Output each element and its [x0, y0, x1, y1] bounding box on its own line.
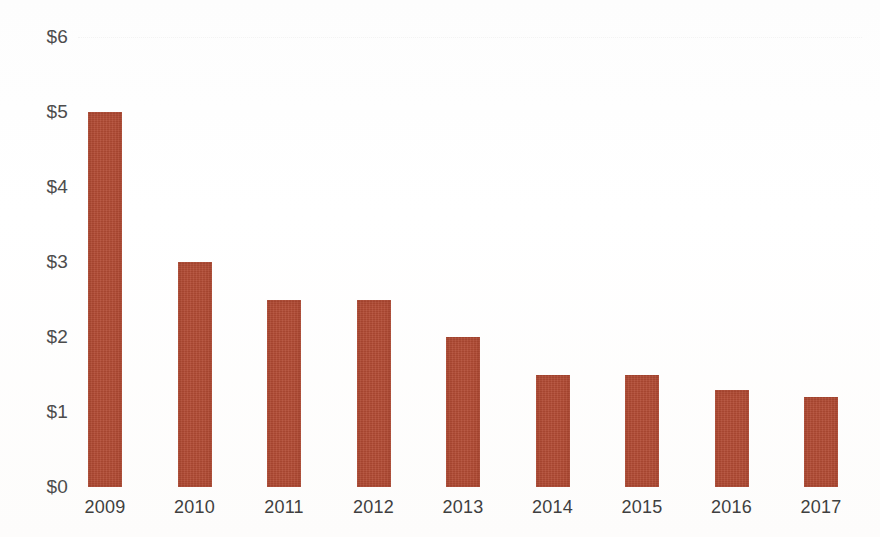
- bar: [446, 337, 480, 487]
- x-tick-label: 2016: [711, 497, 752, 518]
- bar: [715, 390, 749, 488]
- y-tick-label: $4: [22, 176, 68, 198]
- x-tick-label: 2013: [443, 497, 484, 518]
- bar: [267, 300, 301, 488]
- y-tick-label: $6: [22, 26, 68, 48]
- x-tick-label: 2017: [801, 497, 842, 518]
- x-tick-label: 2014: [532, 497, 573, 518]
- y-tick-label: $1: [22, 401, 68, 423]
- x-tick-label: 2009: [85, 497, 126, 518]
- plot-area: $0$1$2$3$4$5$6 2009201020112012201320142…: [0, 0, 880, 537]
- bar: [625, 375, 659, 488]
- x-tick-label: 2010: [174, 497, 215, 518]
- bar: [88, 112, 122, 487]
- bar: [536, 375, 570, 488]
- y-tick-label: $3: [22, 251, 68, 273]
- x-tick-label: 2011: [264, 497, 304, 518]
- x-tick-label: 2015: [622, 497, 663, 518]
- bar: [804, 397, 838, 487]
- y-tick-label: $5: [22, 101, 68, 123]
- bar: [178, 262, 212, 487]
- y-tick-label: $2: [22, 326, 68, 348]
- y-tick-label: $0: [22, 476, 68, 498]
- x-tick-label: 2012: [353, 497, 394, 518]
- bar: [357, 300, 391, 488]
- gridline: [78, 37, 862, 39]
- y-axis: $0$1$2$3$4$5$6: [22, 0, 68, 537]
- bar-chart: $0$1$2$3$4$5$6 2009201020112012201320142…: [0, 0, 880, 537]
